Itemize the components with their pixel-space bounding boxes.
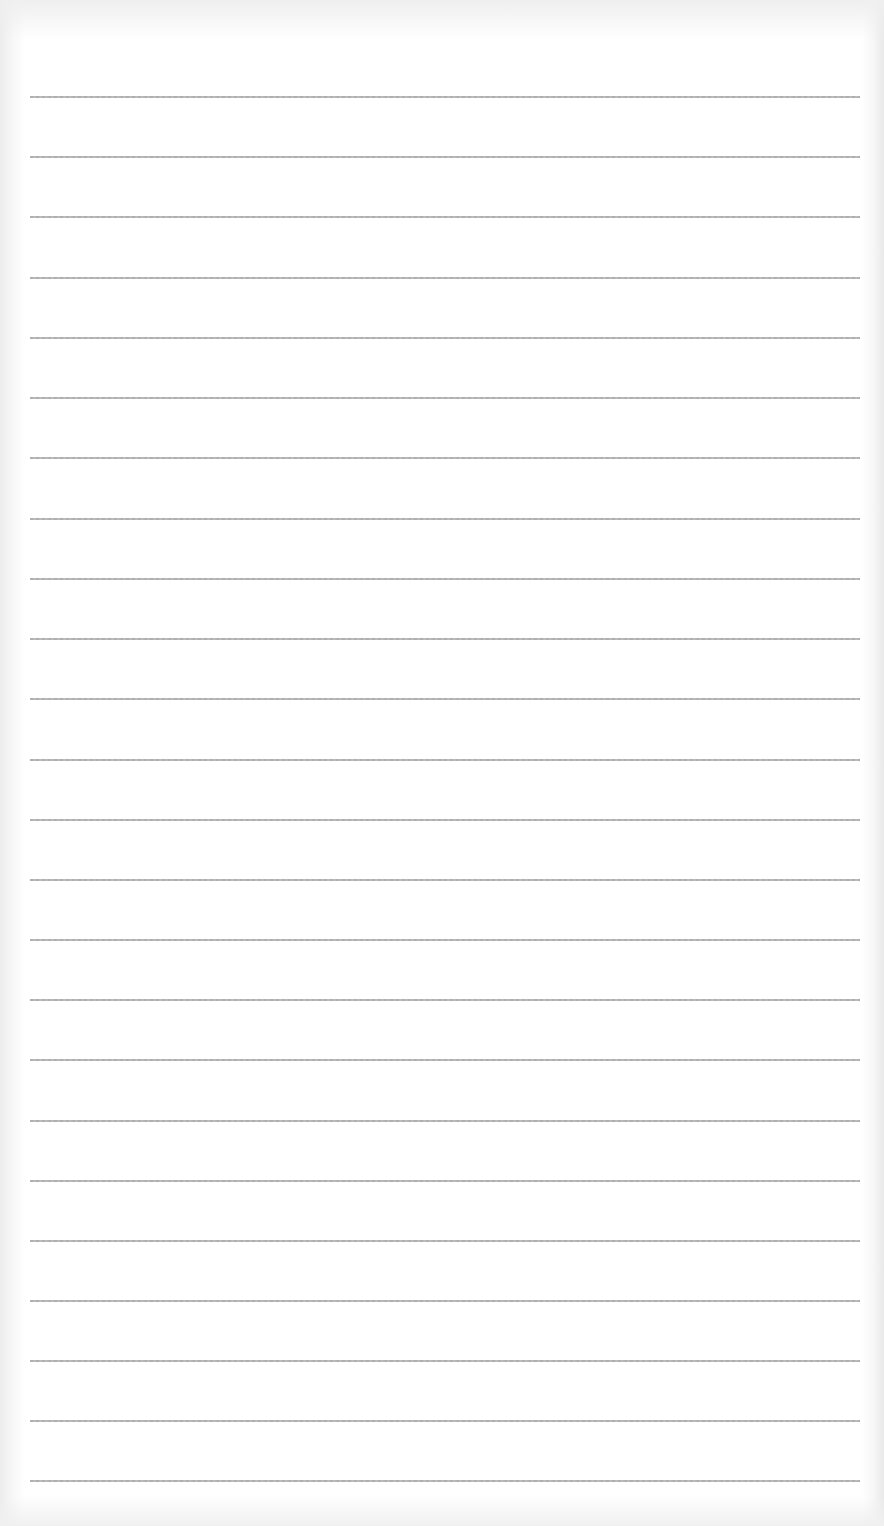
ruled-line <box>30 1180 860 1182</box>
ruled-line <box>30 638 860 640</box>
ruled-line <box>30 1240 860 1242</box>
ruled-line <box>30 156 860 158</box>
ruled-line <box>30 1300 860 1302</box>
ruled-line <box>30 578 860 580</box>
ruled-line <box>30 397 860 399</box>
ruled-line <box>30 759 860 761</box>
ruled-line <box>30 1059 860 1061</box>
ruled-line <box>30 999 860 1001</box>
ruled-line <box>30 337 860 339</box>
ruled-line <box>30 939 860 941</box>
ruled-line <box>30 518 860 520</box>
ruled-line <box>30 698 860 700</box>
ruled-line <box>30 216 860 218</box>
ruled-line <box>30 1120 860 1122</box>
ruled-line <box>30 879 860 881</box>
ruled-paper-sheet <box>0 0 884 1526</box>
ruled-line <box>30 1420 860 1422</box>
ruled-line <box>30 819 860 821</box>
ruled-line <box>30 96 860 98</box>
ruled-line <box>30 277 860 279</box>
ruled-line <box>30 1360 860 1362</box>
ruled-line <box>30 457 860 459</box>
ruled-line <box>30 1480 860 1482</box>
